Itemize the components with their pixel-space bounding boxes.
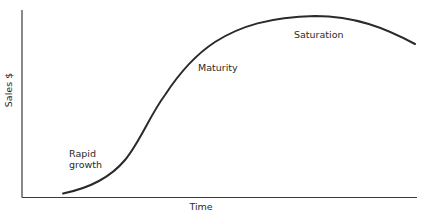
annotation-rapid-growth-line2: growth [69,159,102,170]
annotation-maturity: Maturity [198,62,238,73]
product-life-cycle-chart: Sales $ Time Rapid growth Maturity Satur… [0,0,423,213]
annotation-saturation: Saturation [294,29,344,40]
sales-curve [63,16,415,194]
annotation-rapid-growth-line1: Rapid [69,148,96,159]
y-axis-label: Sales $ [3,73,14,107]
x-axis-label: Time [188,201,212,212]
